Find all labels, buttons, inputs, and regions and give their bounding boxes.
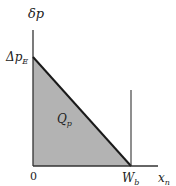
x-axis-label: xn [158,172,170,186]
area-label: Qp [57,113,72,128]
origin-label: 0 [30,171,37,182]
x-intercept-label: Wb [122,172,139,186]
diagram-canvas [0,0,176,186]
y-intercept-label: ΔpE [6,51,28,66]
y-axis-label: δp [28,7,44,20]
